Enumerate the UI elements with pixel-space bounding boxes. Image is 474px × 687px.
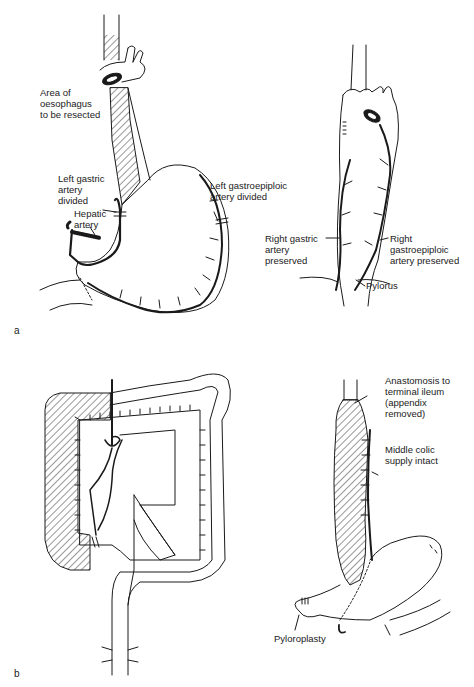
label-anastomosis: Anastomosis to terminal ileum (appendix … [385, 375, 450, 419]
stomach-before-drawing [40, 15, 229, 312]
panel-letter-b: b [14, 668, 20, 679]
label-right-gastric-artery: Right gastric artery preserved [265, 233, 318, 266]
stomach-tube-drawing [300, 45, 398, 306]
label-middle-colic-supply: Middle colic supply intact [385, 444, 438, 466]
label-left-gastric-artery: Left gastric artery divided [58, 173, 104, 206]
label-pylorus: Pylorus [366, 280, 398, 291]
panel-letter-a: a [14, 325, 20, 336]
label-resect-area: Area of oesophagus to be resected [40, 87, 100, 120]
label-left-gastroepiploic-artery: Left gastroepiploic artery divided [210, 180, 287, 202]
label-pyloroplasty: Pyloroplasty [274, 633, 326, 644]
label-hepatic-artery: Hepatic artery [74, 208, 106, 230]
colon-drawing [45, 374, 230, 675]
label-right-gastroepiploic-artery: Right gastroepiploic artery preserved [390, 233, 459, 266]
